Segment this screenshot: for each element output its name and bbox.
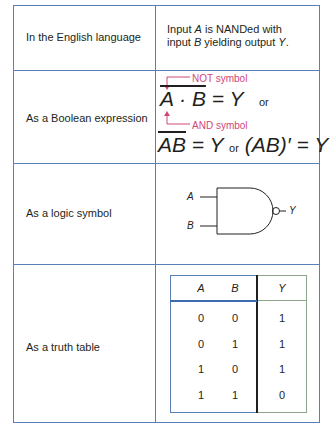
row-label-boolean: As a Boolean expression	[26, 112, 148, 124]
boolean-expression-1: A · B = Y or	[160, 87, 269, 111]
header-b: B	[225, 282, 245, 294]
row-label-english: In the English language	[26, 31, 141, 43]
not-symbol-annotation: NOT symbol	[192, 73, 247, 84]
row-label-logic-symbol: As a logic symbol	[26, 207, 112, 219]
english-description: Input A is NANDed with input B yielding …	[167, 23, 289, 49]
cell: 1	[225, 338, 245, 350]
input-b-label: B	[187, 220, 194, 231]
cell: 1	[272, 363, 292, 375]
cell: 1	[225, 389, 245, 401]
cell: 0	[272, 389, 292, 401]
cell: 1	[191, 389, 211, 401]
cell: 0	[225, 312, 245, 324]
row-label-truth-table: As a truth table	[26, 341, 100, 353]
cell: 1	[272, 338, 292, 350]
header-a: A	[191, 282, 211, 294]
cell: 0	[191, 338, 211, 350]
boolean-expression-2: AB = Y or (AB)′ = Y	[158, 133, 328, 157]
cell: 0	[191, 312, 211, 324]
cell: 0	[225, 363, 245, 375]
cell: 1	[191, 363, 211, 375]
truth-table-output-divider	[256, 275, 258, 413]
output-y-label: Y	[289, 205, 296, 216]
cell: 1	[272, 312, 292, 324]
input-a-label: A	[187, 191, 194, 202]
row-divider	[13, 264, 320, 265]
nand-gate-symbol	[155, 164, 321, 264]
truth-table-header-divider	[170, 300, 257, 302]
and-symbol-annotation: AND symbol	[192, 120, 248, 131]
truth-table-header-divider-output	[258, 300, 307, 301]
header-y: Y	[272, 282, 292, 294]
